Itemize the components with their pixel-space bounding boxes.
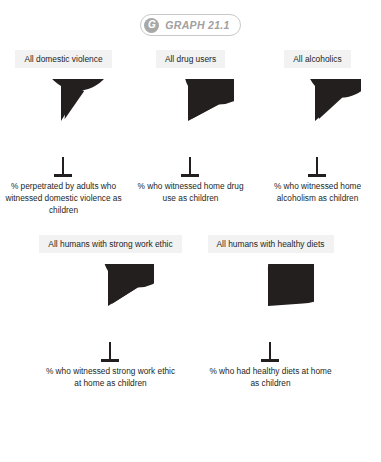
pie-arrow: [317, 157, 318, 176]
pie-arrow: [63, 157, 64, 176]
graph-badge-label: GRAPH 21.1: [165, 19, 229, 31]
graph-header: G GRAPH 21.1: [0, 0, 381, 36]
arrow-head-bar: [181, 174, 199, 176]
pie-group-title: All alcoholics: [284, 50, 350, 68]
pie-svg: [275, 79, 361, 157]
graph-badge-icon: G: [144, 18, 159, 33]
pie-caption: % who witnessed home drug use as childre…: [132, 181, 250, 205]
graph-badge: G GRAPH 21.1: [140, 14, 240, 36]
pie-cell: All humans with strong work ethic % who …: [31, 235, 191, 390]
pie-cell: All domestic violence % perpetrated by a…: [0, 50, 127, 217]
pie-caption: % who witnessed strong work ethic at hom…: [46, 366, 176, 390]
pie-caption: % perpetrated by adults who witnessed do…: [5, 181, 123, 216]
pie-chart-0: [0, 79, 127, 157]
pie-group-title: All drug users: [156, 50, 225, 68]
pie-caption: % who had healthy diets at home as child…: [206, 366, 336, 390]
pie-svg: [21, 79, 107, 157]
pie-cell: All alcoholics % who witnessed home alco…: [254, 50, 381, 217]
pie-cell: All drug users % who witnessed home drug…: [127, 50, 254, 217]
pie-group-title: All humans with healthy diets: [208, 235, 334, 253]
arrow-head-bar: [308, 174, 326, 176]
pie-caption: % who witnessed home alcoholism as child…: [259, 181, 377, 205]
pie-row-top: All domestic violence % perpetrated by a…: [0, 50, 381, 217]
pie-svg: [68, 264, 154, 342]
arrow-head-bar: [261, 359, 279, 361]
pie-chart-4: [191, 264, 351, 342]
arrow-head-bar: [54, 174, 72, 176]
pie-group-title: All humans with strong work ethic: [39, 235, 181, 253]
pie-row-bottom: All humans with strong work ethic % who …: [0, 235, 381, 390]
pie-arrow: [270, 342, 271, 361]
pie-arrow: [110, 342, 111, 361]
pie-svg: [228, 264, 314, 342]
pie-svg: [148, 79, 234, 157]
pie-highlight-wedge: [64, 86, 84, 120]
pie-arrow: [190, 157, 191, 176]
pie-chart-3: [31, 264, 191, 342]
pie-chart-2: [254, 79, 381, 157]
arrow-head-bar: [101, 359, 119, 361]
pie-cell: All humans with healthy diets % who had …: [191, 235, 351, 390]
pie-chart-1: [127, 79, 254, 157]
pie-group-title: All domestic violence: [15, 50, 111, 68]
